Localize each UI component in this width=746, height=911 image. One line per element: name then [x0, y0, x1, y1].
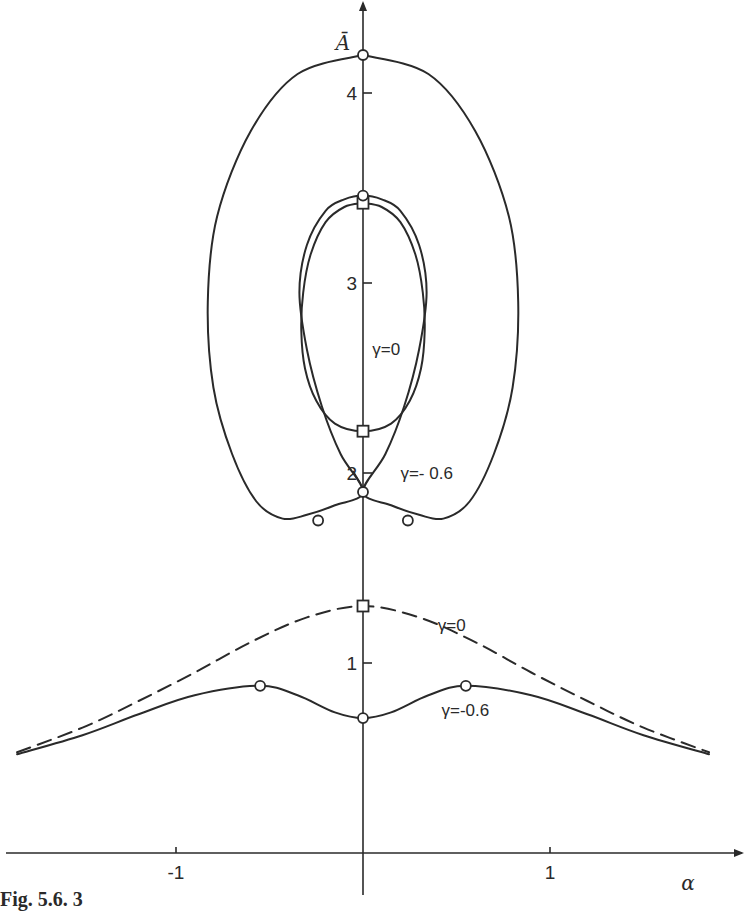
axes [6, 3, 742, 895]
circle-marker [255, 681, 265, 691]
x-tick-label: 1 [545, 862, 556, 883]
circle-marker [358, 713, 368, 723]
x-axis-title: α [681, 871, 695, 895]
y-tick-label: 2 [346, 463, 357, 484]
label-gamma-neg06-loop: γ=- 0.6 [400, 464, 452, 483]
circle-marker [461, 681, 471, 691]
figure-caption: Fig. 5.6. 3 [0, 888, 83, 911]
y-tick-label: 3 [346, 273, 357, 294]
circle-marker [358, 50, 368, 60]
square-marker [358, 426, 369, 437]
label-gamma-0-loop: γ=0 [372, 340, 400, 359]
label-gamma-0-lower: γ=0 [438, 616, 466, 635]
circle-marker [313, 516, 323, 526]
label-gamma-neg06-lower: γ=-0.6 [442, 701, 490, 720]
circle-marker [358, 191, 368, 201]
circle-marker [358, 487, 368, 497]
y-axis-title: Ā [334, 31, 350, 55]
square-marker [358, 601, 369, 612]
x-tick-label: -1 [168, 862, 185, 883]
circle-marker [403, 516, 413, 526]
y-tick-label: 4 [346, 83, 357, 104]
y-tick-label: 1 [346, 653, 357, 674]
labels: -111234αĀγ=0γ=- 0.6γ=0γ=-0.6 [168, 31, 696, 895]
